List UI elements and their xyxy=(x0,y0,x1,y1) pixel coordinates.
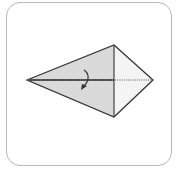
light-face xyxy=(114,45,153,117)
origami-diagram xyxy=(0,0,179,175)
